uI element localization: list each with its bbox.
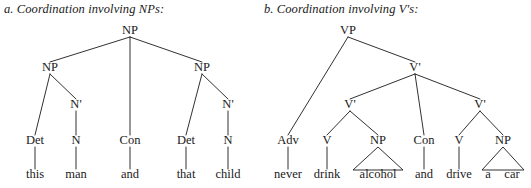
tree-node-label: alcohol (360, 167, 397, 181)
tree-node-label: V' (409, 60, 420, 74)
tree-branch (348, 37, 415, 62)
tree-branch (327, 111, 350, 135)
tree-node-label: NP (370, 133, 386, 147)
tree-node-label: V' (344, 97, 355, 111)
tree-branch (415, 74, 480, 99)
tree-node-label: V (322, 133, 331, 147)
vbar-coordination-tree: VPV'V'V'AdvVNPConVNPneverdrinkalcoholand… (0, 0, 531, 188)
tree-branch (350, 74, 415, 99)
tree-node-label: V (454, 133, 463, 147)
tree-node-label: drive (446, 167, 472, 181)
tree-node-label: never (274, 167, 303, 181)
tree-branch (350, 111, 378, 135)
figure-canvas: a. Coordination involving NPs: b. Coordi… (0, 0, 531, 188)
tree-node-label: a (485, 167, 491, 181)
tree-node-label: and (415, 167, 434, 181)
tree-branch (415, 74, 424, 135)
tree-node-label: V' (474, 97, 485, 111)
tree-branch (459, 111, 480, 135)
tree-node-label: drink (314, 167, 341, 181)
tree-node-label: NP (495, 133, 511, 147)
tree-node-label: car (504, 167, 520, 181)
tree-node-label: VP (340, 23, 356, 37)
tree-node-label: Adv (277, 133, 299, 147)
tree-branch (480, 111, 503, 135)
tree-branch (288, 37, 348, 135)
tree-node-label: Con (414, 133, 436, 147)
